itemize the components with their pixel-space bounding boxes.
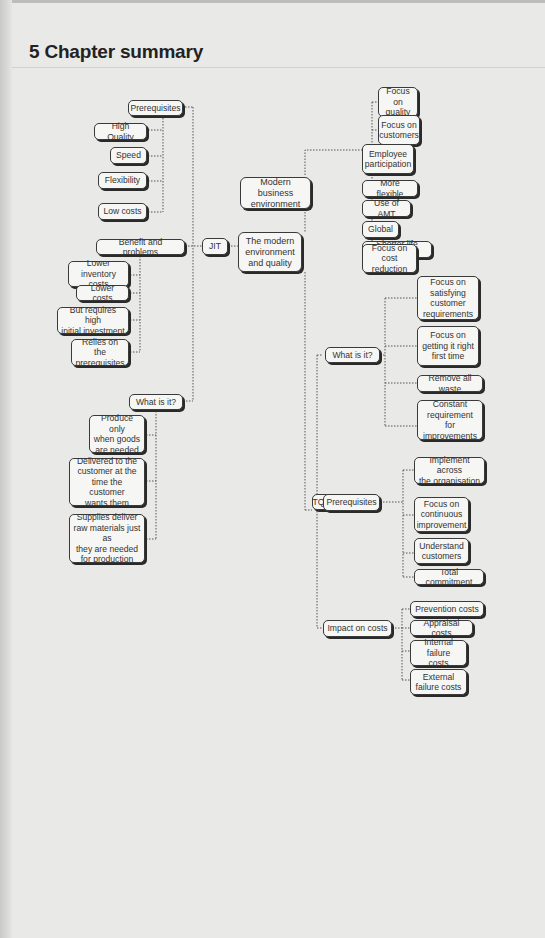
global-node[interactable]: Global <box>362 221 399 238</box>
jit-benefits-node[interactable]: Benefit and problems <box>96 239 185 255</box>
jit-produce-only-node[interactable]: Produce only when goods are needed <box>89 415 145 453</box>
tqm-what-is-it-node[interactable]: What is it? <box>325 347 380 363</box>
jit-flexibility-node[interactable]: Flexibility <box>98 172 147 189</box>
jit-what-is-it-node[interactable]: What is it? <box>129 394 183 410</box>
jit-supplies-deliver-node[interactable]: Supplies deliver raw materials just as t… <box>69 514 145 563</box>
tqm-satisfying-customer-node[interactable]: Focus on satisfying customer requirement… <box>417 276 479 320</box>
tqm-constant-improvement-node[interactable]: Constant requirement for improvements <box>417 400 483 440</box>
focus-on-quality-node[interactable]: Focus on quality <box>378 87 418 117</box>
jit-node[interactable]: JIT <box>202 238 228 255</box>
modern-business-node[interactable]: Modern business environment <box>240 177 311 209</box>
focus-on-cost-reduction-node[interactable]: Focus on cost reduction <box>362 244 417 273</box>
jit-lower-costs-node[interactable]: Lower costs <box>76 285 129 301</box>
use-of-amt-node[interactable]: Use of AMT <box>362 200 411 217</box>
tqm-continuous-improvement-node[interactable]: Focus on continuous improvement <box>414 497 469 532</box>
tqm-understand-customers-node[interactable]: Understand customers <box>414 538 469 564</box>
appraisal-costs-node[interactable]: Appraisal costs <box>410 620 473 636</box>
root-node[interactable]: The modern environment and quality <box>238 232 302 272</box>
tqm-total-commitment-node[interactable]: Total commitment <box>414 569 484 585</box>
tqm-implement-across-node[interactable]: Implement across the organisation <box>414 457 485 484</box>
tqm-impact-on-costs-node[interactable]: Impact on costs <box>323 620 392 637</box>
focus-on-customers-node[interactable]: Focus on customers <box>378 115 420 145</box>
jit-relies-on-prereq-node[interactable]: Relies on the prerequisites <box>71 339 129 366</box>
tqm-remove-waste-node[interactable]: Remove all waste <box>417 375 483 392</box>
tqm-prerequisites-node[interactable]: Prerequisites <box>323 494 380 511</box>
jit-delivered-node[interactable]: Delivered to the customer at the time th… <box>69 458 145 506</box>
tqm-right-first-time-node[interactable]: Focus on getting it right first time <box>417 326 479 366</box>
jit-high-investment-node[interactable]: But requires high initial investment <box>57 307 129 334</box>
jit-speed-node[interactable]: Speed <box>110 147 147 164</box>
employee-participation-node[interactable]: Employee participation <box>362 144 414 174</box>
jit-prerequisites-node[interactable]: Prerequisites <box>128 100 183 116</box>
jit-low-costs-node[interactable]: Low costs <box>98 203 147 220</box>
external-failure-costs-node[interactable]: External failure costs <box>410 669 467 695</box>
prevention-costs-node[interactable]: Prevention costs <box>410 601 484 617</box>
jit-high-quality-node[interactable]: High Quality <box>94 123 147 140</box>
internal-failure-costs-node[interactable]: Internal failure costs <box>410 640 467 666</box>
more-flexible-node[interactable]: More flexible <box>362 180 418 197</box>
